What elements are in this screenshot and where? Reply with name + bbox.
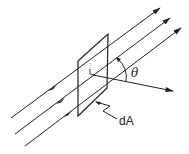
theta-label: θ xyxy=(131,67,138,79)
flux-line-1 xyxy=(11,8,160,118)
flux-line-2 xyxy=(15,18,170,134)
leader-arrow-icon xyxy=(95,102,101,106)
mid-arrow-icon xyxy=(56,98,65,105)
flux-line-3 xyxy=(25,28,181,146)
diagram-graphic xyxy=(0,0,189,154)
flux-diagram: θ dA xyxy=(0,0,189,154)
area-label: dA xyxy=(119,115,134,127)
angle-arc xyxy=(118,59,126,81)
